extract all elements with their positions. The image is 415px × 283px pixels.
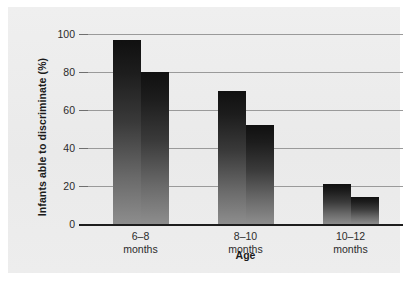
y-tick-label: 20	[63, 180, 75, 192]
x-category-label-line: 8–10	[228, 230, 262, 243]
bar	[246, 125, 274, 224]
bar	[323, 184, 351, 224]
y-axis-title: Infants able to discriminate (%)	[36, 32, 52, 242]
y-tick	[79, 72, 88, 73]
y-tick-label: 40	[63, 142, 75, 154]
bar	[218, 91, 246, 224]
bar	[351, 197, 379, 224]
y-tick-label: 100	[57, 28, 75, 40]
y-tick	[79, 110, 88, 111]
gridline	[88, 34, 403, 35]
y-tick-label: 60	[63, 104, 75, 116]
x-category-label-line: 10–12	[333, 230, 367, 243]
bar	[141, 72, 169, 224]
y-tick	[79, 34, 88, 35]
chart-panel: Infants able to discriminate (%) 0204060…	[8, 7, 400, 273]
y-tick-label: 80	[63, 66, 75, 78]
x-category-label-line: 6–8	[123, 230, 157, 243]
y-tick	[79, 148, 88, 149]
y-tick-label: 0	[69, 218, 75, 230]
x-axis-line	[79, 224, 403, 226]
y-tick	[79, 186, 88, 187]
plot-area: 020406080100 6–8months8–10months10–12mon…	[88, 34, 403, 224]
figure: Infants able to discriminate (%) 0204060…	[0, 0, 415, 283]
bar	[113, 40, 141, 224]
x-axis-title: Age	[88, 249, 403, 261]
